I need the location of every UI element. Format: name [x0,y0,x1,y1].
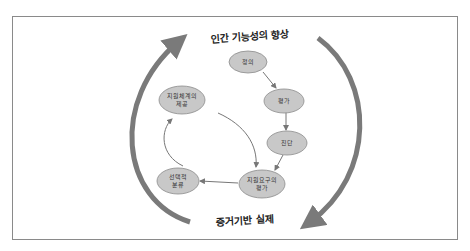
svg-text:정의: 정의 [242,58,254,66]
arrow-definition-to-assessment [263,72,276,88]
svg-text:제공: 제공 [176,100,188,108]
top-label: 인간 기능성의 향상 [210,27,291,45]
arrow-classification-to-support-provision [164,119,183,166]
node-assessment: 평가 [264,89,304,113]
svg-text:선택적: 선택적 [169,173,187,181]
node-diagnosis: 진단 [267,131,307,155]
node-definition: 정의 [229,51,267,73]
arrow-support-provision-to-support-needs [218,113,256,167]
svg-text:진단: 진단 [281,139,293,146]
arrow-diagnosis-to-support-needs [275,155,283,170]
node-classification: 선택적 분류 [157,168,199,194]
arrow-support-needs-to-classification [200,181,238,183]
svg-text:지원체계의: 지원체계의 [167,92,197,100]
svg-text:지원요구의: 지원요구의 [247,176,277,184]
svg-text:평가: 평가 [278,97,290,105]
bottom-label: 증거기반 실제 [216,213,274,228]
cycle-diagram: 정의 평가 진단 지원요구의 평가 선택적 분류 지원체계의 제공 인간 기능성… [0,0,470,251]
left-cycle-arrow [132,42,190,222]
svg-text:분류: 분류 [172,181,184,189]
svg-text:평가: 평가 [256,184,268,192]
right-cycle-arrow [310,38,360,222]
node-support-provision: 지원체계의 제공 [159,86,205,114]
node-support-needs: 지원요구의 평가 [239,170,285,198]
